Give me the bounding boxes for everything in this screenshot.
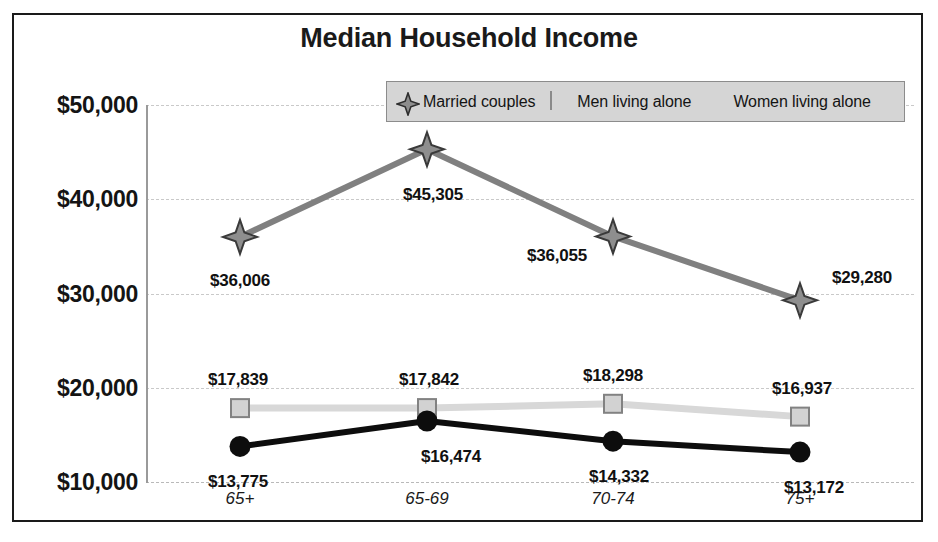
chart-title: Median Household Income — [0, 23, 938, 54]
y-axis-tick-label: $30,000 — [10, 280, 138, 307]
legend-item-label: Men living alone — [577, 93, 691, 111]
data-point-label: $17,839 — [208, 370, 268, 390]
y-axis-tick-label: $20,000 — [10, 374, 138, 401]
x-axis-tick-label: 65-69 — [405, 489, 448, 509]
data-point-label: $29,280 — [832, 268, 892, 288]
gridline — [146, 199, 914, 200]
data-point-label: $36,006 — [210, 271, 270, 291]
circle-marker-icon — [706, 92, 726, 112]
data-point-label: $14,332 — [589, 467, 649, 487]
y-axis-tick-label: $10,000 — [10, 469, 138, 496]
chart-legend[interactable]: Married couplesMen living aloneWomen liv… — [386, 81, 905, 122]
square-swatch — [550, 91, 552, 110]
plot-area — [146, 105, 914, 482]
square-marker-icon — [550, 92, 570, 112]
legend-item[interactable]: Men living alone — [550, 92, 691, 112]
data-point-label: $13,775 — [208, 472, 268, 492]
legend-item-label: Married couples — [423, 93, 535, 111]
x-axis-tick-label: 70-74 — [591, 489, 634, 509]
diamond-star-marker-icon — [396, 92, 416, 112]
data-point-label: $45,305 — [403, 185, 463, 205]
data-point-label: $17,842 — [399, 370, 459, 390]
y-axis-tick-label: $50,000 — [10, 92, 138, 119]
y-axis-tick-labels: $50,000$40,000$30,000$20,000$10,000 — [8, 105, 138, 482]
data-point-label: $13,172 — [784, 478, 844, 498]
data-point-label: $18,298 — [583, 366, 643, 386]
gridline — [146, 294, 914, 295]
legend-item-label: Women living alone — [733, 93, 871, 111]
data-point-label: $16,474 — [421, 447, 481, 467]
y-axis-line — [146, 105, 148, 483]
data-point-label: $36,055 — [527, 246, 587, 266]
legend-item[interactable]: Women living alone — [706, 92, 871, 112]
chart-container: Median Household Income $50,000$40,000$3… — [0, 0, 938, 542]
data-point-label: $16,937 — [772, 379, 832, 399]
y-axis-tick-label: $40,000 — [10, 186, 138, 213]
legend-item[interactable]: Married couples — [396, 92, 535, 112]
